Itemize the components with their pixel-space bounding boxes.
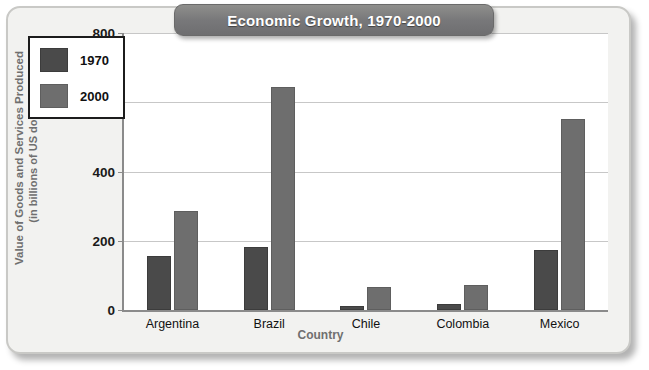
- bar-brazil-2000[interactable]: [271, 87, 295, 310]
- chart-title: Economic Growth, 1970-2000: [227, 12, 441, 29]
- bar-chile-2000[interactable]: [367, 287, 391, 310]
- legend-swatch-icon-1970: [40, 48, 68, 72]
- y-axis-tick-label: 200: [92, 233, 115, 248]
- y-axis-tick-mark: [118, 310, 124, 311]
- legend-item-2000[interactable]: 2000: [40, 84, 109, 108]
- legend-swatch-icon-2000: [40, 84, 68, 108]
- bar-group: Brazil: [221, 33, 318, 310]
- legend-label-1970: 1970: [80, 53, 109, 68]
- bar-colombia-2000[interactable]: [464, 285, 488, 310]
- bar-group: Chile: [318, 33, 415, 310]
- bar-argentina-1970[interactable]: [147, 256, 171, 310]
- y-axis-title-line1: Value of Goods and Services Produced: [13, 51, 25, 265]
- legend-item-1970[interactable]: 1970: [40, 48, 109, 72]
- bar-brazil-1970[interactable]: [244, 247, 268, 310]
- x-axis-title: Country: [8, 328, 633, 342]
- bar-mexico-1970[interactable]: [534, 250, 558, 310]
- chart-title-banner: Economic Growth, 1970-2000: [174, 4, 494, 36]
- legend-label-2000: 2000: [80, 89, 109, 104]
- chart-legend: 1970 2000: [28, 36, 125, 119]
- bar-group: Mexico: [511, 33, 608, 310]
- bar-mexico-2000[interactable]: [561, 119, 585, 310]
- bar-argentina-2000[interactable]: [174, 211, 198, 310]
- plot-inner: 0200400600800 ArgentinaBrazilChileColomb…: [124, 33, 608, 310]
- plot-area: 0200400600800 ArgentinaBrazilChileColomb…: [122, 33, 608, 312]
- bar-chile-1970[interactable]: [340, 306, 364, 310]
- y-axis-tick-label: 0: [107, 303, 115, 318]
- bar-group: Colombia: [414, 33, 511, 310]
- chart-figure-frame: Economic Growth, 1970-2000 Value of Good…: [6, 6, 631, 354]
- y-axis-tick-label: 400: [92, 164, 115, 179]
- bar-colombia-1970[interactable]: [437, 304, 461, 310]
- bar-group: Argentina: [124, 33, 221, 310]
